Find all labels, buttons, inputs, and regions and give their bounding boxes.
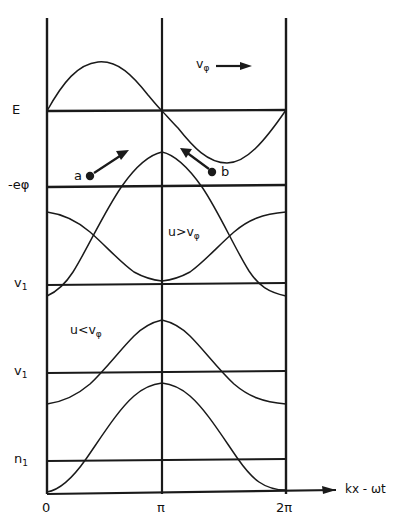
figure-root: E -eφ v1 v1 n1 0 π 2π kx - ωt vφ u>vφ u<… [0, 0, 409, 528]
particle-a-label: a [74, 168, 82, 183]
figure-canvas [0, 0, 409, 528]
x-axis-label: kx - ωt [345, 482, 386, 496]
x-axis-line [47, 490, 336, 494]
y-label-v1-lower-text: v [14, 363, 22, 378]
particle-b-dot [208, 168, 216, 176]
y-label-v1-upper-sub: 1 [22, 282, 28, 292]
u-less-annotation: u<vφ [70, 322, 102, 339]
y-label-ephi-text: -eφ [8, 177, 29, 192]
phase-velocity-arrow [216, 62, 252, 70]
phase-velocity-sub: φ [203, 63, 209, 73]
u-greater-sub: φ [194, 231, 200, 241]
plot-frame [47, 18, 336, 494]
y-label-ephi: -eφ [8, 177, 29, 192]
y-label-v1-lower-sub: 1 [22, 370, 28, 380]
x-tick-0: 0 [42, 500, 50, 515]
curve-velocity-fast-electrons [47, 212, 286, 281]
data-curves [47, 62, 286, 492]
u-less-sub: φ [96, 329, 102, 339]
horizontal-gridlines [47, 110, 286, 461]
y-label-E-text: E [12, 102, 20, 117]
particle-b-arrowhead [180, 148, 192, 158]
y-label-n1-sub: 1 [22, 458, 28, 468]
gridline-v1-lower [47, 371, 286, 373]
y-label-v1-lower: v1 [14, 363, 27, 380]
x-axis-arrowhead [322, 486, 336, 494]
curve-density-perturbation [47, 383, 286, 492]
particle-a-dot [86, 172, 94, 180]
gridline-n1 [47, 459, 286, 461]
gridline-ephi [47, 185, 286, 187]
particle-b-arrow-shaft [186, 152, 209, 169]
y-label-n1-text: n [14, 451, 22, 466]
u-greater-annotation: u>vφ [168, 224, 200, 241]
particle-a-arrow-shaft [94, 154, 123, 173]
curve-potential-energy-well [47, 152, 286, 296]
y-label-v1-upper-text: v [14, 275, 22, 290]
y-label-E: E [12, 102, 20, 117]
particle-markers [86, 148, 216, 180]
gridline-v1-upper [47, 283, 286, 285]
phase-velocity-arrowhead [240, 62, 252, 70]
x-tick-2pi: 2π [276, 500, 292, 515]
curve-wave-field-E [47, 62, 286, 163]
gridline-E [47, 110, 286, 111]
y-label-v1-upper: v1 [14, 275, 27, 292]
particle-b-label: b [221, 164, 229, 179]
u-greater-text: u>v [168, 224, 194, 239]
x-tick-pi: π [157, 500, 165, 515]
u-less-text: u<v [70, 322, 96, 337]
phase-velocity-annotation: vφ [196, 56, 209, 73]
y-label-n1: n1 [14, 451, 28, 468]
